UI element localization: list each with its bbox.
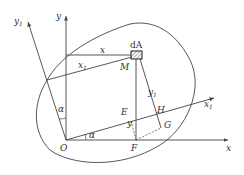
label-E: E bbox=[120, 107, 128, 117]
label-y-segment: y bbox=[126, 118, 133, 128]
label-x1-segment: x1 bbox=[78, 60, 87, 71]
area-element-dA bbox=[131, 51, 142, 59]
angle-arc-top bbox=[59, 118, 66, 119]
label-O: O bbox=[60, 143, 68, 153]
label-dA: dA bbox=[130, 40, 143, 50]
label-alpha-bottom: α bbox=[89, 130, 95, 140]
label-G: G bbox=[164, 120, 171, 130]
coordinate-rotation-diagram: y1 y x x1 x x1 dA M y y1 α α O E F H G bbox=[0, 0, 244, 175]
label-x-segment: x bbox=[100, 45, 105, 55]
label-alpha-top: α bbox=[58, 104, 64, 114]
angle-arc-bottom bbox=[85, 134, 86, 140]
y1-axis bbox=[28, 22, 66, 140]
label-x1-axis: x1 bbox=[204, 99, 213, 110]
dashed-FG bbox=[136, 128, 161, 140]
label-x-axis: x bbox=[226, 143, 231, 153]
label-M: M bbox=[119, 62, 130, 72]
section-boundary bbox=[36, 23, 195, 163]
label-y1-axis: y1 bbox=[13, 16, 23, 27]
label-y1-segment: y1 bbox=[147, 87, 157, 98]
section-diagram: y1 y x x1 x x1 dA M y y1 α α O E F H G bbox=[0, 0, 244, 175]
label-F: F bbox=[130, 143, 138, 153]
label-H: H bbox=[156, 105, 165, 115]
label-y-axis: y bbox=[55, 11, 62, 21]
